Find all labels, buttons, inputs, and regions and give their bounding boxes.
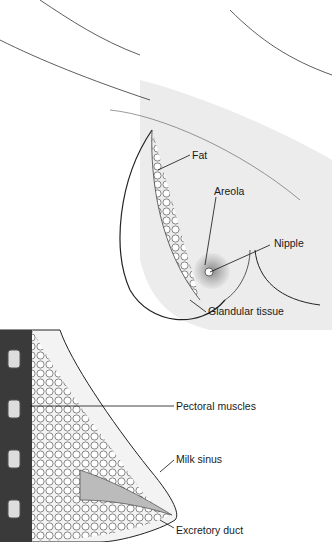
label-glandular-tissue: Glandular tissue [208,305,284,317]
label-areola: Areola [214,185,244,197]
label-nipple: Nipple [274,237,304,249]
label-milk-sinus: Milk sinus [176,453,222,465]
label-pectoral-muscles: Pectoral muscles [176,400,256,412]
breast-anatomy-diagram: Fat Areola Nipple Glandular tissue Pecto… [0,0,332,542]
diagram-illustration [0,0,332,542]
front-view [0,0,332,330]
label-excretory-duct: Excretory duct [176,524,243,536]
label-fat: Fat [192,149,207,161]
cross-section-view [0,330,177,542]
